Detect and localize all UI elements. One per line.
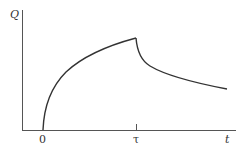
origin-tick-label: 0 [39,133,46,146]
chart: Q 0 τ t [0,0,241,149]
decay-curve [136,38,227,89]
y-axis-label: Q [10,8,19,21]
tau-tick-label: τ [133,133,139,146]
rising-curve [43,38,136,130]
x-axis-label: t [225,133,230,146]
